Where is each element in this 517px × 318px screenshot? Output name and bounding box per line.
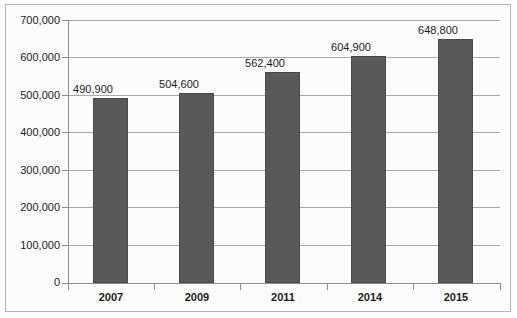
x-tick-mark xyxy=(413,284,414,290)
x-tick-label-2007: 2007 xyxy=(76,291,146,303)
y-tick-label: 0 xyxy=(2,277,60,288)
x-tick-label-2011: 2011 xyxy=(248,291,318,303)
y-axis-line xyxy=(68,20,69,284)
x-tick-label-2015: 2015 xyxy=(421,291,491,303)
x-tick-label-2014: 2014 xyxy=(335,291,405,303)
bar-2007[interactable] xyxy=(93,98,128,283)
bar-chart: 700,000 600,000 500,000 400,000 300,000 … xyxy=(0,0,517,318)
y-tick-label: 500,000 xyxy=(2,90,60,101)
y-tick-label: 200,000 xyxy=(2,202,60,213)
y-tick-label: 600,000 xyxy=(2,52,60,63)
y-tick-label: 300,000 xyxy=(2,165,60,176)
bar-value-label-2007: 490,900 xyxy=(58,84,128,95)
x-tick-mark xyxy=(327,284,328,290)
bar-value-label-2015: 648,800 xyxy=(403,25,473,36)
bar-2011[interactable] xyxy=(265,72,300,283)
y-tick-label: 400,000 xyxy=(2,127,60,138)
bar-2009[interactable] xyxy=(179,93,214,283)
x-tick-mark xyxy=(68,284,69,290)
x-tick-mark xyxy=(154,284,155,290)
bar-value-label-2014: 604,900 xyxy=(316,42,386,53)
y-tick-label: 100,000 xyxy=(2,240,60,251)
bar-2014[interactable] xyxy=(351,56,386,283)
y-tick-label: 700,000 xyxy=(2,15,60,26)
x-tick-mark xyxy=(500,284,501,290)
bar-value-label-2009: 504,600 xyxy=(144,79,214,90)
x-axis-line xyxy=(68,283,501,284)
x-tick-label-2009: 2009 xyxy=(162,291,232,303)
gridline xyxy=(68,20,500,21)
bar-value-label-2011: 562,400 xyxy=(230,58,300,69)
y-axis-labels: 700,000 600,000 500,000 400,000 300,000 … xyxy=(0,0,60,318)
bar-2015[interactable] xyxy=(438,39,473,283)
x-tick-mark xyxy=(240,284,241,290)
